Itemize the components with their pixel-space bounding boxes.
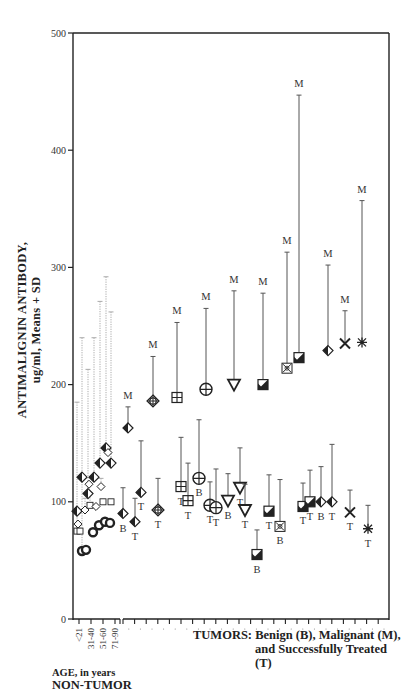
- point-label: T: [347, 521, 354, 532]
- tumor-point-T: T: [305, 470, 315, 522]
- diamond-plus-cross: [152, 504, 164, 516]
- tumor-point-B: B: [222, 474, 234, 521]
- tumor-point-M: M: [147, 339, 159, 407]
- triangle-marker: [239, 505, 251, 516]
- half-diamond-fill: [106, 458, 111, 468]
- non-tumor-marker: [106, 519, 114, 527]
- tumor-point-M: M: [228, 274, 240, 391]
- age-tick-label: 71-90: [110, 628, 120, 649]
- tumor-minor-dot: [152, 629, 153, 630]
- diamond-marker: [97, 483, 105, 491]
- point-label: T: [213, 517, 220, 528]
- circle-marker: [106, 519, 114, 527]
- half-diamond-fill: [123, 423, 128, 433]
- non-tumor-point: [109, 312, 114, 463]
- tumor-point-B: B: [118, 488, 128, 534]
- y-tick-label: 500: [51, 28, 66, 39]
- tumor-point-M: M: [282, 235, 292, 373]
- non-tumor-point: [98, 301, 103, 463]
- non-tumor-marker: [77, 472, 87, 482]
- non-tumor-marker: [100, 499, 106, 505]
- point-label: M: [357, 184, 367, 195]
- non-tumor-marker: [89, 528, 97, 536]
- half-diamond-fill: [327, 497, 332, 507]
- diamond-plus-cross: [147, 395, 159, 407]
- half-diamond-fill: [95, 458, 100, 468]
- tumor-group-6: MBT: [252, 276, 274, 574]
- point-label: M: [294, 78, 304, 89]
- non-tumor-series: [72, 277, 116, 555]
- tumor-point-T: T: [152, 478, 164, 530]
- point-label: B: [276, 535, 283, 546]
- point-label: M: [282, 235, 292, 246]
- point-label: T: [300, 515, 307, 526]
- tumor-point-B: B: [316, 467, 326, 522]
- tumor-point-B: B: [275, 480, 285, 547]
- point-label: M: [148, 339, 158, 350]
- triangle-marker: [228, 380, 240, 391]
- tumor-point-M: M: [357, 184, 367, 348]
- half-diamond-fill: [83, 489, 88, 499]
- diamond-marker: [74, 520, 82, 528]
- non-tumor-marker: [82, 546, 90, 554]
- point-label: B: [253, 564, 260, 575]
- point-label: M: [201, 291, 211, 302]
- antibody-chart: 0100200300400500 <2131-4051-6071-90 MBTT…: [0, 0, 409, 694]
- tumor-point-M: M: [340, 294, 350, 349]
- diamond-marker: [85, 480, 93, 488]
- point-label: T: [132, 531, 139, 542]
- tumor-point-M: M: [123, 390, 133, 433]
- tumor-point-M: M: [323, 248, 333, 356]
- point-label: T: [329, 511, 336, 522]
- circle-marker: [82, 546, 90, 554]
- tumor-series: MBTTMTMTTMBTTMBTTMBTMBMTTMBTMTMT: [118, 78, 373, 574]
- half-diamond-fill: [118, 509, 123, 519]
- non-tumor-marker: [83, 489, 93, 499]
- non-tumor-marker: [95, 458, 105, 468]
- asterisk-marker: [363, 524, 373, 534]
- tumor-minor-dot: [128, 629, 129, 630]
- tumor-point-T: T: [136, 441, 146, 513]
- point-label: M: [340, 294, 350, 305]
- tumor-point-B: B: [193, 420, 205, 499]
- tumor-group-4: MBTT: [193, 291, 222, 527]
- square-marker: [108, 499, 114, 505]
- tumor-group-9: MBT: [316, 248, 337, 522]
- tumor-point-T: T: [327, 444, 337, 521]
- half-diamond-fill: [323, 346, 328, 356]
- non-tumor-marker: [77, 528, 83, 534]
- point-label: B: [195, 487, 202, 498]
- tumor-group-8: MTT: [294, 78, 315, 526]
- point-label: M: [172, 305, 182, 316]
- y-axis: 0100200300400500: [51, 28, 73, 625]
- half-diamond-fill: [136, 487, 141, 497]
- asterisk-marker: [357, 337, 367, 347]
- x-axis-title-tumors: TUMORS: Benign (B), Malignant (M), and S…: [193, 628, 403, 670]
- tumor-point-M: M: [258, 276, 268, 389]
- triangle-marker: [222, 496, 234, 507]
- tumor-group-11: MT: [357, 184, 373, 549]
- non-tumor-marker: [87, 502, 93, 508]
- tumor-minor-dot: [163, 629, 164, 630]
- point-label: T: [185, 510, 192, 521]
- y-tick-label: 0: [61, 614, 66, 625]
- tumor-point-B: B: [252, 530, 262, 575]
- tumors-title-line2: and Successfully Treated (T): [193, 642, 403, 670]
- point-label: M: [123, 390, 133, 401]
- tumor-minor-dot: [175, 629, 176, 630]
- tumor-minor-dot: [140, 629, 141, 630]
- square-marker: [87, 502, 93, 508]
- tumor-group-7: MB: [275, 235, 292, 546]
- point-label: T: [242, 519, 249, 530]
- x-axis-title-age: AGE, in years NON-TUMOR: [52, 666, 132, 692]
- y-axis-title-line2: ug/ml, Means + SD: [29, 277, 43, 384]
- non-tumor-marker: [108, 499, 114, 505]
- non-tumor-point: [80, 338, 85, 551]
- circle-marker: [89, 528, 97, 536]
- non-tumor-marker: [74, 520, 82, 528]
- point-label: M: [323, 248, 333, 259]
- non-tumor-marker: [106, 458, 116, 468]
- tumor-group-1: MBTT: [118, 390, 146, 542]
- tumor-point-T: T: [363, 505, 373, 548]
- tumor-group-10: MT: [340, 294, 355, 533]
